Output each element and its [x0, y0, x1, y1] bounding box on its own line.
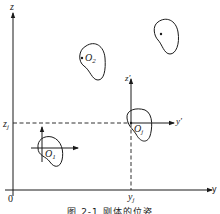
body-top-right-center-dot — [160, 33, 162, 35]
body-2-center-dot — [81, 57, 83, 59]
body-j-origin-dot — [130, 122, 132, 124]
z-prime-label: z′ — [125, 74, 130, 83]
zj-label: zj — [3, 119, 9, 131]
global-y-label: y — [212, 185, 217, 194]
y-prime-label: y′ — [176, 117, 182, 126]
body-1-label: O1 — [45, 149, 56, 161]
global-z-label: z — [10, 2, 14, 12]
figure-caption: 图 2-1 刚体的位姿 — [0, 205, 220, 214]
body-2-label: O2 — [85, 53, 96, 65]
origin-label: 0 — [8, 194, 13, 204]
yj-label: yj — [128, 192, 134, 204]
rigid-body-coordinate-diagram — [0, 0, 220, 214]
body-j-label: Oj — [134, 124, 143, 136]
body-top-right-outline — [154, 19, 178, 54]
